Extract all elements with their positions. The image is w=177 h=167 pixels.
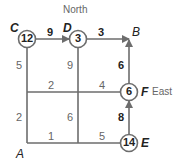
- grid-diagram: [0, 0, 177, 167]
- edge-bottom-right-weight: 5: [99, 130, 105, 142]
- north-label: North: [63, 4, 87, 15]
- edge-f-b-weight: 6: [118, 59, 124, 71]
- edge-middle-left-weight: 2: [48, 79, 54, 91]
- node-f-value: 6: [121, 85, 137, 97]
- node-b-label: B: [132, 25, 140, 39]
- edge-left-lower-weight: 2: [16, 111, 22, 123]
- node-e-label: E: [141, 136, 149, 150]
- node-d-label: D: [63, 21, 72, 35]
- grid-lines: [27, 39, 129, 143]
- edge-e-f-weight: 8: [118, 111, 124, 123]
- node-a-label: A: [16, 147, 24, 161]
- node-e-value: 14: [121, 136, 137, 148]
- node-c-value: 12: [19, 32, 35, 44]
- edge-middle-right-weight: 4: [99, 79, 105, 91]
- node-d-value: 3: [70, 32, 86, 44]
- edge-c-d-weight: 9: [47, 26, 53, 38]
- east-label: East: [152, 86, 172, 97]
- edge-bottom-left-weight: 1: [48, 130, 54, 142]
- node-c-label: C: [10, 21, 19, 35]
- edge-mid-upper-weight: 9: [67, 59, 73, 71]
- edge-mid-lower-weight: 6: [67, 111, 73, 123]
- edge-left-upper-weight: 5: [16, 59, 22, 71]
- edge-d-b-weight: 3: [98, 26, 104, 38]
- node-f-label: F: [141, 85, 148, 99]
